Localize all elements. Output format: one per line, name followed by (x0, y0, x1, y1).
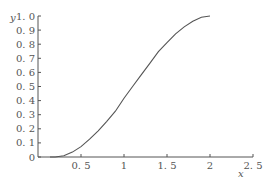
y-tick-label: 0. 8 (16, 39, 35, 50)
y-tick-label: 0. 4 (16, 95, 35, 106)
y-tick-label: 0. 9 (16, 25, 35, 36)
axes (38, 16, 253, 157)
y-axis-label: y (9, 12, 16, 23)
x-axis-label: x (238, 168, 244, 179)
x-tick-label: 0. 5 (71, 160, 90, 171)
x-tick-label: 1 (121, 160, 127, 171)
y-tick-label: 0. 3 (16, 109, 35, 120)
chart: 0. 511. 522. 500. 10. 20. 30. 40. 50. 60… (0, 0, 273, 191)
y-tick-label: 0. 7 (16, 53, 35, 64)
y-tick-label: 1. 0 (16, 11, 35, 22)
y-tick-label: 0. 1 (16, 137, 35, 148)
x-tick-label: 2. 5 (243, 160, 262, 171)
y-tick-label: 0. 5 (16, 81, 35, 92)
x-tick-label: 1. 5 (157, 160, 176, 171)
x-tick-label: 2 (207, 160, 213, 171)
y-tick-label: 0. 6 (16, 67, 35, 78)
y-tick-label: 0 (29, 152, 35, 163)
data-curve (50, 16, 210, 157)
ticks: 0. 511. 522. 500. 10. 20. 30. 40. 50. 60… (16, 11, 263, 172)
y-tick-label: 0. 2 (16, 123, 35, 134)
